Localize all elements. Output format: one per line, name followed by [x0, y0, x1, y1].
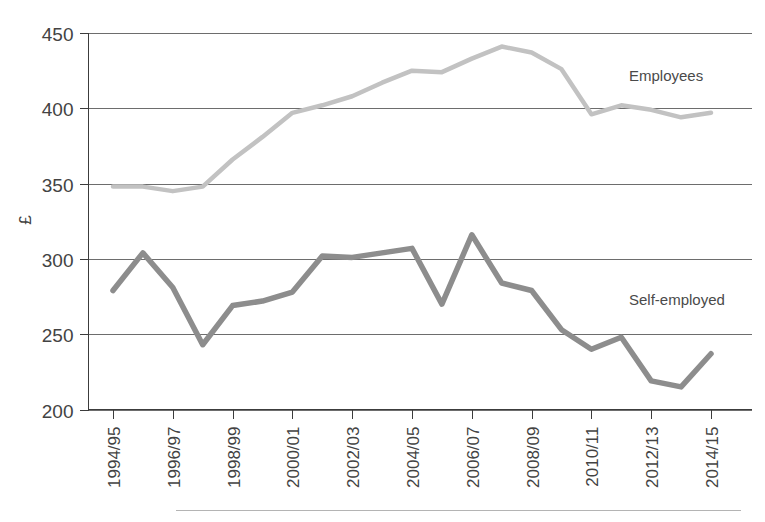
x-tick-labels: 1994/951996/971998/992000/012002/032004/…	[105, 427, 722, 488]
x-tick-label-1996/97: 1996/97	[165, 427, 184, 488]
y-tick-label-400: 400	[42, 99, 74, 120]
y-tick-label-250: 250	[42, 325, 74, 346]
x-tick-label-2000/01: 2000/01	[284, 427, 303, 488]
y-tick-label-300: 300	[42, 250, 74, 271]
x-tick-label-2006/07: 2006/07	[464, 427, 483, 488]
x-tick-label-2004/05: 2004/05	[404, 427, 423, 488]
y-tick-label-450: 450	[42, 24, 74, 45]
x-tick-label-2002/03: 2002/03	[344, 427, 363, 488]
x-tick-label-1994/95: 1994/95	[105, 427, 124, 488]
x-tick-label-1998/99: 1998/99	[225, 427, 244, 488]
self-employed-series-label: Self-employed	[629, 291, 725, 308]
y-tick-marks	[80, 34, 89, 411]
y-tick-label-350: 350	[42, 175, 74, 196]
employees-series-label: Employees	[629, 67, 703, 84]
x-tick-label-2014/15: 2014/15	[703, 427, 722, 488]
chart-canvas: 200250300350400450 1994/951996/971998/99…	[0, 0, 765, 522]
series-annotations: Employees Self-employed	[629, 67, 725, 308]
y-tick-labels: 200250300350400450	[42, 24, 74, 422]
series-lines	[113, 47, 711, 387]
series-line-self-employed	[113, 235, 711, 387]
series-line-employees	[113, 47, 711, 192]
y-tick-label-200: 200	[42, 401, 74, 422]
x-tick-label-2010/11: 2010/11	[583, 427, 602, 487]
y-axis-title-label: £	[16, 215, 35, 225]
x-tick-label-2012/13: 2012/13	[643, 427, 662, 488]
gridlines	[89, 34, 753, 411]
line-chart: 200250300350400450 1994/951996/971998/99…	[0, 0, 765, 522]
y-axis-title: £	[16, 215, 35, 225]
x-tick-label-2008/09: 2008/09	[524, 427, 543, 488]
